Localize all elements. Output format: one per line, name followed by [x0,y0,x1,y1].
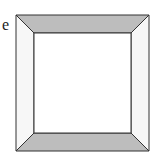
inner-square [34,33,131,133]
bottom-trapezoid [16,133,149,151]
right-trapezoid [131,15,149,151]
left-trapezoid [16,15,34,151]
top-trapezoid [16,15,149,33]
square-frame-diagram [0,0,158,162]
